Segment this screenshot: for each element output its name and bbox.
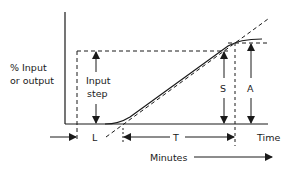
response-curve	[105, 39, 262, 124]
a-label: A	[247, 83, 254, 94]
x-axis-label: Time	[256, 132, 280, 143]
process-reaction-diagram: Input step % Input or output S A L T Tim…	[0, 0, 286, 170]
l-label: L	[92, 132, 98, 143]
y-axis-label-1: % Input	[10, 62, 47, 73]
t-label: T	[172, 132, 179, 143]
s-label: S	[220, 83, 226, 94]
input-step-label-1: Input	[86, 75, 111, 86]
minutes-label: Minutes	[150, 152, 187, 163]
y-axis-label-2: or output	[10, 75, 54, 86]
input-step-label-2: step	[87, 88, 108, 99]
tangent-dashed	[106, 19, 268, 137]
